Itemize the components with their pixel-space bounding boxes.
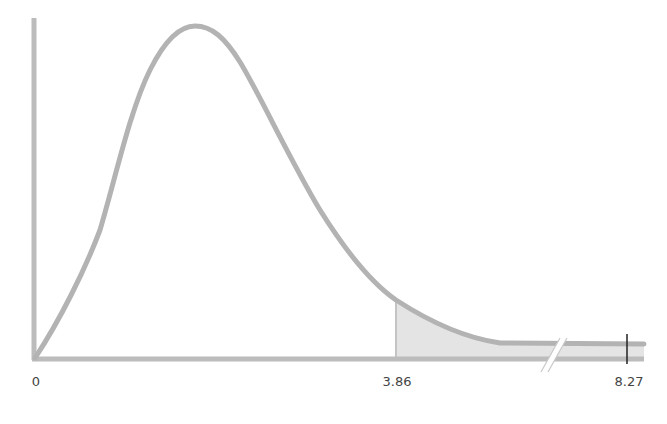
x-tick-label-critical: 3.86	[383, 374, 412, 389]
shaded-tail-region	[396, 300, 644, 358]
x-tick-label-origin: 0	[32, 374, 40, 389]
x-tick-label-observed: 8.27	[615, 374, 644, 389]
chart-canvas: 0 3.86 8.27	[0, 0, 667, 424]
density-curve	[35, 26, 644, 358]
